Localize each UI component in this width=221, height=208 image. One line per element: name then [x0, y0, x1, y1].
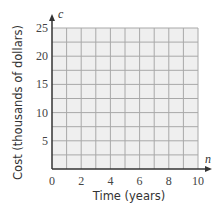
y-tick-label: 25: [36, 21, 48, 35]
y-tick-label: 5: [42, 134, 48, 148]
x-tick-label: 4: [107, 174, 113, 188]
y-tick-label: 15: [36, 77, 48, 91]
x-tick-label: 2: [78, 174, 84, 188]
cost-time-grid-chart: 0246810 510152025 Time (years) Cost (tho…: [0, 0, 221, 208]
y-tick-label: 20: [36, 49, 48, 63]
y-tick-labels: 510152025: [36, 21, 48, 148]
y-tick-label: 10: [36, 106, 48, 120]
x-axis-arrow-icon: [205, 166, 212, 172]
y-axis-arrow-icon: [49, 14, 55, 21]
y-axis-label: Cost (thousands of dollars): [11, 25, 25, 180]
x-axis-label: Time (years): [92, 189, 165, 203]
x-variable-label: n: [205, 152, 211, 166]
x-tick-label: 8: [166, 174, 172, 188]
x-tick-label: 0: [49, 174, 55, 188]
x-tick-label: 6: [137, 174, 143, 188]
y-variable-label: c: [58, 7, 64, 21]
x-tick-labels: 0246810: [49, 174, 204, 188]
x-tick-label: 10: [192, 174, 204, 188]
